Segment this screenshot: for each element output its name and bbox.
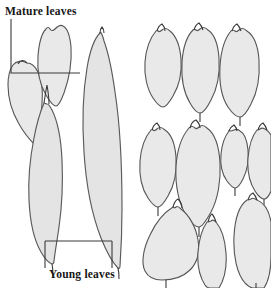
leaf-diagram-figure: Mature leaves Young leaves	[0, 0, 271, 288]
young-leaves-label: Young leaves	[49, 269, 115, 281]
leaf-r3c2	[198, 220, 226, 288]
mature-leaves-label: Mature leaves	[5, 6, 77, 18]
leaf-r1c2	[182, 28, 219, 113]
leaf-r1c1	[145, 29, 181, 107]
leaf-r2c4	[248, 128, 271, 199]
leaf-r2c3	[221, 129, 249, 188]
leaf-r3c3	[234, 198, 271, 288]
leaf-r2c1	[140, 128, 176, 207]
leaf-r1c3	[220, 29, 259, 117]
leaf-diagram-canvas	[0, 0, 271, 288]
leaf-left-long-2	[83, 32, 122, 268]
leaf-left-long-2-petiole	[118, 268, 119, 279]
